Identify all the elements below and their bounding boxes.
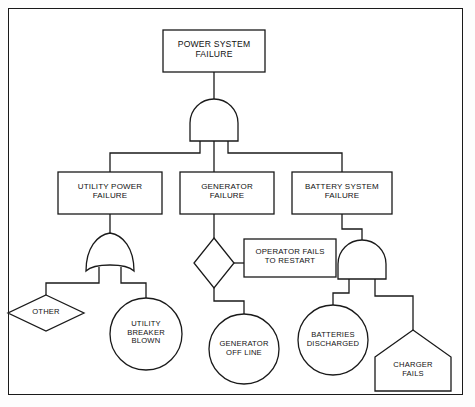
link-battery-and-leg-left (333, 279, 349, 305)
link-transfer-to-generator-offline (214, 288, 244, 314)
link-gate-top-leg-right (228, 141, 342, 172)
link-battery-to-andgate (342, 214, 362, 242)
node-generator-off-line[interactable] (209, 314, 279, 384)
link-gate-top-leg-left (110, 141, 200, 172)
node-charger-fails[interactable] (375, 330, 451, 391)
node-other[interactable] (8, 295, 84, 331)
node-operator-fails-to-restart[interactable] (244, 239, 336, 277)
node-gate-top[interactable] (190, 99, 238, 141)
node-battery-system-failure[interactable] (292, 172, 392, 214)
node-gate-battery-and[interactable] (338, 240, 386, 279)
diagram-canvas (0, 0, 475, 407)
node-top-event[interactable] (163, 30, 265, 72)
node-batteries-discharged[interactable] (298, 305, 368, 375)
node-gate-utility-or[interactable] (86, 233, 134, 271)
fault-tree-diagram: POWER SYSTEM FAILURE UTILITY POWER FAILU… (0, 0, 475, 407)
link-orgate-leg-right (121, 267, 146, 298)
node-generator-failure[interactable] (180, 172, 274, 214)
link-battery-and-leg-right (375, 279, 413, 330)
node-utility-power-failure[interactable] (58, 172, 162, 214)
node-transfer-generator[interactable] (194, 238, 234, 288)
node-utility-breaker-blown[interactable] (110, 298, 182, 370)
link-orgate-leg-left (46, 267, 99, 295)
